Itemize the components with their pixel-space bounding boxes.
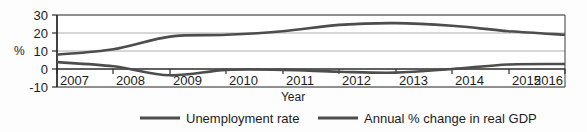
y-tick-labels: 30 20 10 0 -10 — [29, 8, 48, 95]
x-tick-label-2008: 2008 — [116, 73, 145, 88]
x-tick-label-2014: 2014 — [455, 73, 484, 88]
x-axis-title: Year — [281, 90, 305, 104]
y-tick-label-minus10: -10 — [29, 80, 48, 95]
y-tick-label-30: 30 — [34, 8, 48, 23]
chart-canvas: 30 20 10 0 -10 % 2007 2008 2009 2010 201… — [0, 0, 587, 132]
x-tick-label-2013: 2013 — [399, 73, 428, 88]
y-tick-label-20: 20 — [34, 26, 48, 41]
chart-legend: Unemployment rate Annual % change in rea… — [140, 111, 537, 126]
x-tick-label-2016: 2016 — [534, 73, 563, 88]
legend-label-unemployment-rate: Unemployment rate — [186, 111, 299, 126]
x-tick-label-2007: 2007 — [60, 73, 89, 88]
x-tick-label-2010: 2010 — [229, 73, 258, 88]
x-tick-label-2011: 2011 — [286, 73, 314, 88]
y-axis-title: % — [14, 44, 25, 58]
line-chart: 30 20 10 0 -10 % 2007 2008 2009 2010 201… — [0, 0, 587, 132]
y-tick-label-10: 10 — [34, 44, 48, 59]
x-tick-label-2012: 2012 — [342, 73, 371, 88]
y-tick-label-0: 0 — [41, 62, 48, 77]
legend-label-gdp-change: Annual % change in real GDP — [364, 111, 537, 126]
